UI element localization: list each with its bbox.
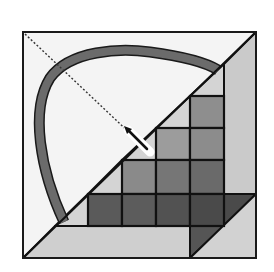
grid-cell bbox=[190, 96, 224, 128]
grid-cell bbox=[122, 160, 156, 194]
grid-cell bbox=[156, 128, 190, 160]
grid-cell bbox=[190, 194, 224, 226]
geometric-illustration bbox=[0, 0, 274, 272]
grid-cell bbox=[156, 194, 190, 226]
grid-cell bbox=[190, 160, 224, 194]
grid-cell bbox=[122, 194, 156, 226]
grid-cell bbox=[88, 194, 122, 226]
diagram-canvas bbox=[0, 0, 274, 272]
grid-cell bbox=[156, 160, 190, 194]
grid-cell bbox=[190, 128, 224, 160]
